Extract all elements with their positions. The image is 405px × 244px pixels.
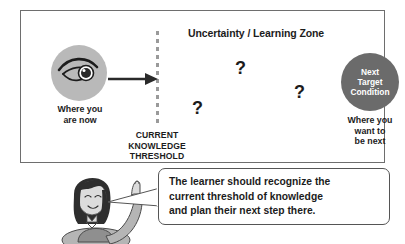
current-state-caption-line1: Where you <box>41 104 119 115</box>
diagram-canvas: Uncertainty / Learning Zone Where you ar… <box>0 0 405 244</box>
eye-icon <box>51 45 107 101</box>
threshold-label-line2: KNOWLEDGE <box>109 141 205 152</box>
speech-bubble-line1: The learner should recognize the <box>169 175 383 190</box>
speech-bubble-tail <box>108 180 164 210</box>
question-mark: ? <box>294 83 305 101</box>
threshold-label-line1: CURRENT <box>109 130 205 141</box>
speech-bubble-text: The learner should recognize the current… <box>169 175 383 219</box>
current-state-circle <box>51 45 107 101</box>
next-target-condition-circle: Next Target Condition <box>341 53 399 111</box>
question-mark: ? <box>192 99 203 117</box>
target-caption-line2: want to <box>333 126 405 137</box>
speech-bubble-line2: current threshold of knowledge <box>169 190 383 205</box>
current-state-caption: Where you are now <box>41 104 119 125</box>
speech-bubble-line3: and plan their next step there. <box>169 204 383 219</box>
arrow-right-icon <box>107 70 159 88</box>
target-caption-line1: Where you <box>333 115 405 126</box>
target-label-line3: Condition <box>350 87 389 97</box>
target-caption-line3: be next <box>333 136 405 147</box>
zone-title: Uncertainty / Learning Zone <box>161 27 351 39</box>
speech-bubble: The learner should recognize the current… <box>158 168 390 225</box>
next-target-caption: Where you want to be next <box>333 115 405 147</box>
target-label-line2: Target <box>358 77 383 87</box>
knowledge-threshold-label: CURRENT KNOWLEDGE THRESHOLD <box>109 130 205 162</box>
target-label-line1: Next <box>361 67 379 77</box>
learning-zone-frame: Uncertainty / Learning Zone Where you ar… <box>20 10 385 163</box>
current-state-caption-line2: are now <box>41 115 119 126</box>
question-mark: ? <box>235 59 246 77</box>
